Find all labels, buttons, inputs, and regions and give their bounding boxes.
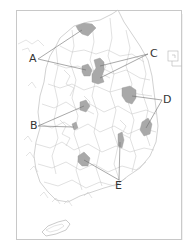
mainland-outline xyxy=(34,10,158,202)
label-d: D xyxy=(163,94,171,105)
korea-map xyxy=(0,0,192,252)
label-a: A xyxy=(29,53,37,64)
label-e: E xyxy=(115,180,122,191)
jeju-island-inner xyxy=(46,224,64,232)
label-c: C xyxy=(150,48,158,59)
inset-box xyxy=(168,51,182,66)
jeju-island xyxy=(42,220,70,236)
label-b: B xyxy=(30,120,38,131)
